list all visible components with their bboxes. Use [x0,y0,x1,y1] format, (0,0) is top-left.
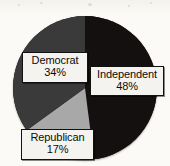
pie-label-democrat-value: 34% [26,67,84,79]
pie-chart-screenshot: Democrat 34% Independent 48% Republican … [0,0,170,166]
pie-label-democrat: Democrat 34% [22,52,88,83]
pie-label-republican-value: 17% [25,144,90,156]
scan-speck [88,3,92,6]
scan-gradient-artifact [0,0,170,14]
scan-speck [128,5,130,7]
scan-speck [150,2,152,4]
pie-label-independent: Independent 48% [90,66,164,96]
pie-label-republican: Republican 17% [21,129,94,160]
scan-speck [40,2,43,4]
pie-label-independent-value: 48% [94,81,160,93]
scan-speck [18,4,20,6]
